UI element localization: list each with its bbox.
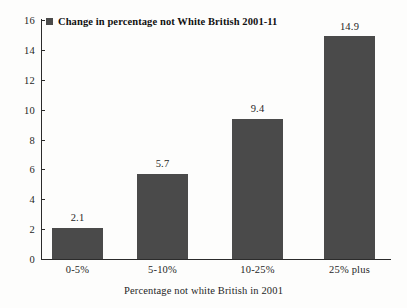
- x-axis-category-label: 5-10%: [132, 264, 193, 275]
- y-axis-tick-label: 16: [13, 16, 35, 27]
- x-axis-title: Percentage not white British in 2001: [0, 285, 407, 296]
- bar-10-25: [232, 119, 283, 259]
- bar-value-label: 2.1: [52, 213, 103, 224]
- y-axis-tick: [41, 169, 45, 170]
- legend-entry-label: Change in percentage not White British 2…: [58, 16, 277, 27]
- x-axis-line: [41, 259, 391, 260]
- y-axis-tick: [41, 110, 45, 111]
- bar-5-10: [137, 174, 188, 259]
- bar-chart: Change in percentage not White British 2…: [0, 0, 407, 308]
- y-axis-tick: [41, 50, 45, 51]
- x-axis-category-label: 25% plus: [319, 264, 380, 275]
- y-axis-tick-label: 14: [13, 46, 35, 57]
- y-axis-tick: [41, 80, 45, 81]
- y-axis-tick-label: 8: [13, 136, 35, 147]
- y-axis-tick: [41, 199, 45, 200]
- y-axis-tick-label: 4: [13, 195, 35, 206]
- bar-value-label: 14.9: [324, 22, 375, 33]
- bar-25-plus: [324, 36, 375, 259]
- y-axis-tick-label: 0: [13, 255, 35, 266]
- y-axis-tick-label: 2: [13, 225, 35, 236]
- y-axis-tick-label: 10: [13, 106, 35, 117]
- y-axis-tick-label: 12: [13, 76, 35, 87]
- y-axis-tick: [41, 20, 45, 21]
- chart-legend: Change in percentage not White British 2…: [46, 16, 277, 27]
- y-axis-tick-label: 6: [13, 165, 35, 176]
- y-axis-tick: [41, 229, 45, 230]
- bar-0-5: [52, 228, 103, 259]
- x-axis-category-label: 0-5%: [47, 264, 108, 275]
- y-axis-tick: [41, 259, 45, 260]
- y-axis-tick: [41, 140, 45, 141]
- bar-value-label: 9.4: [232, 104, 283, 115]
- x-axis-category-label: 10-25%: [227, 264, 288, 275]
- legend-swatch-icon: [46, 18, 53, 25]
- bar-value-label: 5.7: [137, 159, 188, 170]
